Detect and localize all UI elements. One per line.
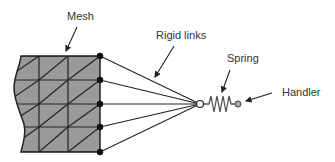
rigid-link xyxy=(100,104,200,127)
boundary-node xyxy=(97,124,103,130)
handler-label: Handler xyxy=(282,87,321,98)
boundary-node xyxy=(97,53,103,59)
boundary-node xyxy=(97,149,103,155)
mesh-label: Mesh xyxy=(67,11,94,22)
handler-node[interactable] xyxy=(235,101,241,107)
diagram-canvas xyxy=(0,0,335,162)
rigid-link xyxy=(100,80,200,104)
boundary-node xyxy=(97,77,103,83)
spring-label: Spring xyxy=(227,53,259,64)
rigid-links xyxy=(100,56,200,152)
mesh xyxy=(0,56,100,152)
rigid-link xyxy=(100,56,200,104)
spring-icon xyxy=(204,96,235,112)
handler-arrow xyxy=(246,93,272,101)
spring-arrow xyxy=(222,70,230,92)
hub-node xyxy=(197,101,204,108)
rigid-links-arrow xyxy=(155,46,174,77)
rigid-link xyxy=(100,104,200,152)
mesh-arrow xyxy=(66,27,77,51)
boundary-node xyxy=(97,101,103,107)
rigid-links-label: Rigid links xyxy=(156,30,206,41)
